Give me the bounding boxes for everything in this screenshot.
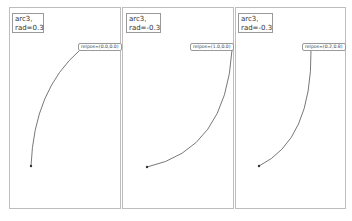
arc-curve-1 — [31, 50, 80, 166]
title-box-1: arc3, rad=0.3 — [12, 13, 44, 33]
relpos-label-3: relpos=(0.2,0.8) — [302, 43, 346, 51]
title-box-2: arc3, rad=-0.3 — [126, 13, 161, 33]
arrows-layer — [0, 0, 352, 221]
title-box-3: arc3, rad=-0.3 — [238, 13, 273, 33]
arc-curve-3 — [259, 50, 311, 166]
data-point-1 — [30, 165, 32, 167]
arc-curve-2 — [147, 50, 232, 167]
relpos-label-1: relpos=(0.0,0.0) — [78, 43, 122, 51]
relpos-label-2: relpos=(1.0,0.0) — [190, 43, 234, 51]
data-point-2 — [146, 166, 148, 168]
data-point-3 — [258, 165, 260, 167]
